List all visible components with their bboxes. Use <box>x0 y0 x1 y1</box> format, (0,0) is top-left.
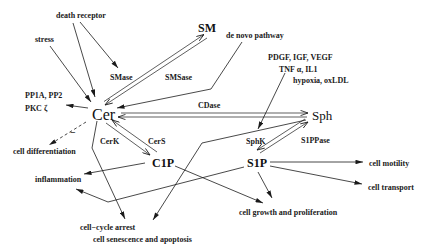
edge-death-receptor-to-smase <box>80 22 118 68</box>
node-cer: Cer <box>92 106 116 123</box>
edge-s1p-to-cell-transport <box>270 166 362 184</box>
edge-cer-to-cell-differentiation <box>49 122 86 145</box>
node-sph: Sph <box>312 108 333 123</box>
label-pp1a-pp2: PP1A, PP2 <box>25 91 62 100</box>
label-cell-cycle-arrest: cell−cycle arrest <box>80 223 136 232</box>
label-inflammation: inflammation <box>35 175 82 184</box>
edge-cer-to-sm <box>104 35 204 102</box>
inhibition-sign: − <box>70 127 76 138</box>
label-smase: SMase <box>110 73 133 82</box>
label-pkc-zeta: PKC ζ <box>25 104 48 113</box>
label-cerk: CerK <box>100 137 120 146</box>
label-stress: stress <box>35 35 54 44</box>
label-smsase: SMSase <box>165 73 193 82</box>
sphingolipid-pathway-diagram: death receptor stress de novo pathway PD… <box>0 0 426 251</box>
label-death-receptor: death receptor <box>56 11 106 20</box>
label-s1ppase: S1PPase <box>301 136 330 145</box>
edge-growth-factors-to-sphk <box>258 73 285 129</box>
label-cers: CerS <box>148 137 166 146</box>
label-sphk: SphK <box>246 137 266 146</box>
label-growth-proliferation: cell growth and proliferation <box>239 208 338 217</box>
edge-death-receptor-to-cer <box>73 23 95 97</box>
label-growth-factors-2: TNF α, IL1 <box>279 65 318 74</box>
label-cell-differentiation: cell differentiation <box>13 147 76 156</box>
label-cell-motility: cell motility <box>369 159 409 168</box>
label-growth-factors-1: PDGF, IGF, VEGF <box>268 53 333 62</box>
node-sm: SM <box>198 21 216 35</box>
edge-cer-to-cell-cycle-arrest <box>92 121 125 219</box>
node-s1p: S1P <box>247 156 267 170</box>
edge-c1p-to-cer <box>112 120 157 152</box>
label-senescence-apoptosis: cell senescence and apoptosis <box>93 235 192 244</box>
edge-s1p-to-growth <box>258 172 272 198</box>
label-de-novo-pathway: de novo pathway <box>226 31 284 40</box>
node-c1p: C1P <box>152 156 174 170</box>
label-cell-transport: cell transport <box>368 183 414 192</box>
edge-sm-to-cer <box>105 38 207 105</box>
diagram-svg: death receptor stress de novo pathway PD… <box>0 0 426 251</box>
label-growth-factors-3: hypoxia, oxLDL <box>293 76 349 85</box>
edge-c1p-to-inflammation <box>84 163 145 174</box>
edge-c1p-to-growth <box>175 166 263 203</box>
edge-cer-to-pkc <box>66 105 88 108</box>
edge-sph-to-senescence-apoptosis <box>153 120 306 220</box>
label-cdase: CDase <box>198 101 221 110</box>
